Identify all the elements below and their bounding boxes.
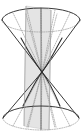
conic-section-figure: Double cone cut by a vertical plane prod…: [0, 0, 82, 134]
cutting-plane-group: [24, 6, 51, 130]
double-cone-diagram-svg: Double cone cut by a vertical plane prod…: [0, 0, 82, 134]
cutting-plane-shape: [24, 6, 51, 130]
apex-point: [41, 71, 43, 73]
